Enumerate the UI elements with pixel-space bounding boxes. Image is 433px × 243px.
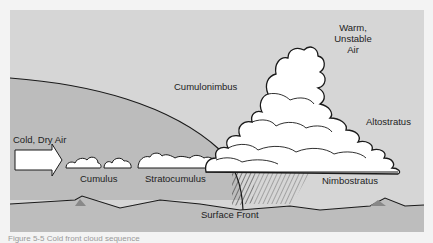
label-warm-line2: Unstable — [318, 33, 388, 44]
label-altostratus: Altostratus — [366, 116, 411, 127]
label-stratocumulus: Stratocumulus — [145, 173, 206, 184]
label-cumulonimbus: Cumulonimbus — [174, 81, 237, 92]
label-surface-front: Surface Front — [201, 209, 259, 220]
label-nimbostratus: Nimbostratus — [322, 175, 378, 186]
figure-caption: Figure 5-5 Cold front cloud sequence — [8, 234, 140, 243]
rain-heavy — [232, 172, 255, 206]
label-warm-unstable-air: Warm, Unstable Air — [318, 22, 388, 55]
label-warm-line3: Air — [318, 44, 388, 55]
label-cold-dry-air: Cold, Dry Air — [13, 134, 66, 145]
label-warm-line1: Warm, — [318, 22, 388, 33]
label-cumulus: Cumulus — [80, 173, 118, 184]
